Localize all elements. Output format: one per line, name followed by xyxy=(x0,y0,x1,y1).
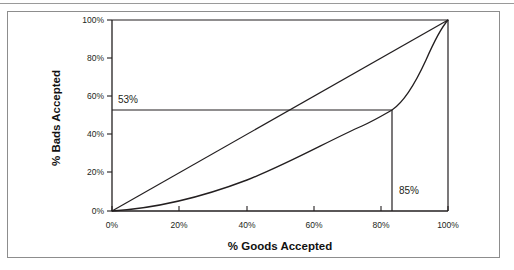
y-tick-label-100: 100% xyxy=(82,15,104,25)
y-axis-title: % Bads Accepted xyxy=(50,70,62,166)
x-tick-label-40: 40% xyxy=(238,220,255,230)
y-tick-label-80: 80% xyxy=(87,53,104,63)
x-tick-label-100: 100% xyxy=(437,220,459,230)
x-axis-title: % Goods Accepted xyxy=(228,240,332,252)
y-tick-label-20: 20% xyxy=(87,167,104,177)
x-tick-label-0: 0% xyxy=(106,220,119,230)
figure-page: 100% 80% 60% 40% 20% 0% 0% 20% 40% 60% 8… xyxy=(0,0,514,270)
y-axis-tick-labels: 100% 80% 60% 40% 20% 0% xyxy=(82,15,104,216)
reference-lines xyxy=(112,110,392,211)
annotation-label-53: 53% xyxy=(118,94,138,105)
y-tick-label-60: 60% xyxy=(87,91,104,101)
x-tick-label-60: 60% xyxy=(305,220,322,230)
diagonal-reference-series xyxy=(112,20,448,211)
annotation-label-85: 85% xyxy=(399,185,419,196)
y-tick-label-0: 0% xyxy=(92,206,105,216)
x-axis-tick-labels: 0% 20% 40% 60% 80% 100% xyxy=(106,220,459,230)
data-series xyxy=(112,20,448,211)
x-tick-label-20: 20% xyxy=(170,220,187,230)
y-tick-label-40: 40% xyxy=(87,129,104,139)
annotation-labels: 53% 85% xyxy=(118,94,419,196)
y-axis-ticks xyxy=(107,20,112,211)
x-axis-ticks xyxy=(112,206,448,211)
acceptance-curve-chart: 100% 80% 60% 40% 20% 0% 0% 20% 40% 60% 8… xyxy=(0,0,514,270)
x-tick-label-80: 80% xyxy=(372,220,389,230)
